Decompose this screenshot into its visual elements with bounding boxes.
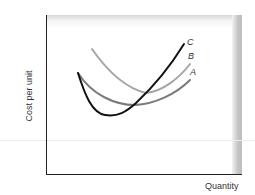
curve-label-c: C bbox=[187, 37, 194, 47]
curve-label-b: B bbox=[188, 51, 194, 61]
y-axis-label: Cost per unit bbox=[24, 70, 34, 121]
curve-label-a: A bbox=[190, 67, 196, 77]
x-axis-label: Quantity bbox=[205, 181, 239, 191]
plot-area bbox=[0, 0, 255, 195]
